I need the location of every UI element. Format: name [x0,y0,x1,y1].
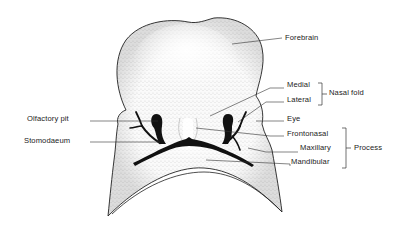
nasal-fold-bracket [318,83,322,105]
label-mandibular: Mandibular [291,158,330,166]
process-bracket [342,128,346,168]
label-process: Process [354,144,382,152]
label-stomodaeum: Stomodaeum [24,137,70,145]
label-eye: Eye [287,115,300,123]
embryo-face-diagram: Forebrain Medial Lateral Nasal fold Eye … [0,0,412,232]
label-lateral: Lateral [287,96,311,104]
label-olfactory-pit: Olfactory pit [27,115,69,123]
label-maxillary: Maxillary [300,144,331,152]
label-medial: Medial [287,81,310,89]
label-forebrain: Forebrain [285,34,318,42]
label-frontonasal: Frontonasal [287,130,328,138]
label-nasal-fold: Nasal fold [329,89,364,97]
